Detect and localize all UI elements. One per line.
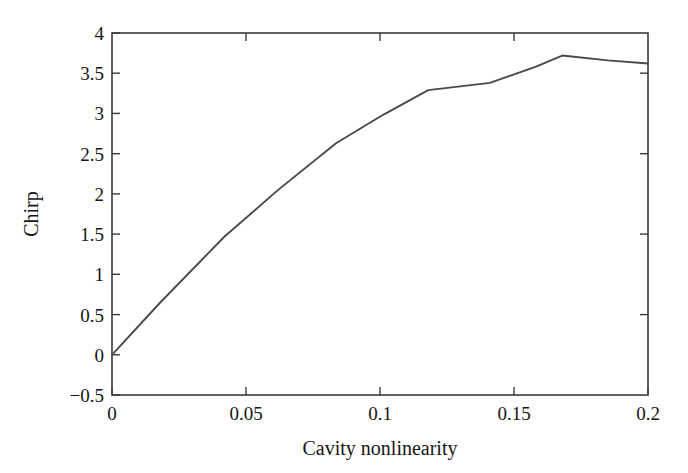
y-tick-label-neg0_5: −0.5 [70, 385, 104, 406]
data-series-line [112, 56, 648, 355]
chart-figure: 4 3.5 3 2.5 2 1.5 1 0.5 0 −0.5 0 0.05 0.… [0, 0, 688, 473]
y-tick-label-1: 1 [95, 264, 105, 285]
plot-frame [112, 33, 648, 395]
x-tick-label-0_2: 0.2 [636, 403, 660, 424]
y-axis-title: Chirp [20, 191, 43, 237]
x-tick-marks-top [246, 33, 514, 41]
x-axis-title: Cavity nonlinearity [303, 437, 458, 460]
y-tick-label-1_5: 1.5 [80, 224, 104, 245]
y-tick-marks-right [640, 73, 648, 314]
x-tick-label-0_1: 0.1 [368, 403, 392, 424]
x-tick-marks [112, 387, 648, 395]
y-tick-label-3: 3 [95, 103, 105, 124]
y-tick-label-0: 0 [95, 345, 105, 366]
line-chart-canvas: 4 3.5 3 2.5 2 1.5 1 0.5 0 −0.5 0 0.05 0.… [0, 0, 688, 473]
y-tick-marks [112, 33, 120, 395]
y-tick-label-4: 4 [95, 23, 105, 44]
x-tick-label-0_05: 0.05 [229, 403, 262, 424]
y-tick-label-0_5: 0.5 [80, 305, 104, 326]
x-tick-label-0: 0 [107, 403, 117, 424]
y-tick-label-2: 2 [95, 184, 105, 205]
y-tick-label-2_5: 2.5 [80, 144, 104, 165]
y-tick-label-3_5: 3.5 [80, 63, 104, 84]
x-tick-label-0_15: 0.15 [497, 403, 530, 424]
